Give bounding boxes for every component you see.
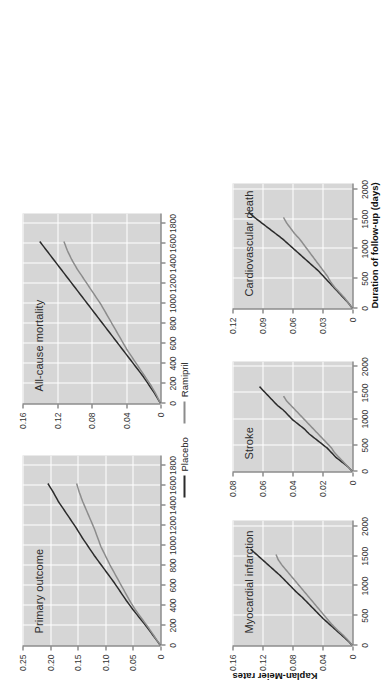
figure-viewport: Primary outcome0200400600800100012001400… <box>0 0 382 693</box>
x-tick <box>353 247 357 248</box>
y-tick <box>322 309 323 313</box>
panel-title: Cardiovascular death <box>242 190 254 296</box>
y-tick-label: 0.09 <box>257 317 267 334</box>
figure-stage: Primary outcome0200400600800100012001400… <box>0 0 382 693</box>
plot-area: Cardiovascular death <box>232 183 352 308</box>
y-tick-label: 0.12 <box>227 317 237 334</box>
y-tick-label: 0.06 <box>287 317 297 334</box>
panel-cardiovascular-death: Cardiovascular death050010001500200000.0… <box>0 0 382 693</box>
curve-placebo <box>248 212 352 308</box>
legend-item[interactable]: Placebo <box>178 437 189 497</box>
legend-line-icon <box>183 475 185 497</box>
legend-label: Ramipril <box>178 362 189 397</box>
x-axis-title: Duration of follow-up (days) <box>368 183 379 308</box>
x-tick <box>353 307 357 308</box>
x-tick-label: 500 <box>359 271 369 285</box>
x-tick-label: 1000 <box>359 239 369 258</box>
y-tick <box>262 309 263 313</box>
y-tick <box>352 309 353 313</box>
x-axis-line <box>352 183 353 308</box>
legend-item[interactable]: Ramipril <box>178 362 189 423</box>
x-tick <box>353 218 357 219</box>
y-tick-label: 0 <box>347 317 357 322</box>
curve-ramipril <box>283 217 352 308</box>
legend-label: Placebo <box>178 437 189 471</box>
legend: PlaceboRamipril <box>178 362 189 497</box>
y-tick <box>232 309 233 313</box>
x-tick-label: 1500 <box>359 209 369 228</box>
y-tick <box>292 309 293 313</box>
x-tick-label: 0 <box>359 306 369 311</box>
x-tick-label: 2000 <box>359 179 369 198</box>
y-axis-title: Kaplan-Meier rates <box>232 670 317 681</box>
y-tick-label: 0.03 <box>317 317 327 334</box>
legend-line-icon <box>183 401 185 423</box>
kaplan-meier-figure: Primary outcome0200400600800100012001400… <box>0 0 382 693</box>
x-tick <box>353 277 357 278</box>
x-tick <box>353 188 357 189</box>
